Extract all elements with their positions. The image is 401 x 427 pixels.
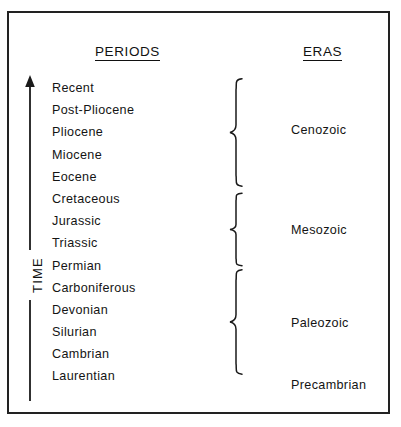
brace-mesozoic [228,192,250,267]
period-row: Eocene [52,166,222,188]
period-row: Recent [52,77,222,99]
period-row: Cretaceous [52,188,222,210]
column-header-periods-label: PERIODS [95,44,160,61]
period-row: Pliocene [52,121,222,143]
period-row: Cambrian [52,343,222,365]
time-axis [0,0,60,427]
brace-cenozoic [228,77,250,188]
column-header-periods: PERIODS [95,44,160,61]
curly-brace-icon [228,192,250,267]
column-header-eras: ERAS [303,44,342,61]
period-row: Devonian [52,299,222,321]
period-row: Jurassic [52,210,222,232]
period-row: Post-Pliocene [52,99,222,121]
period-row: Carboniferous [52,277,222,299]
geological-time-scale-diagram: PERIODS ERAS TIME Recent Post-Pliocene P… [0,0,401,427]
era-label-precambrian: Precambrian [291,378,366,392]
time-axis-arrow [0,0,60,427]
era-label-cenozoic: Cenozoic [291,123,346,137]
era-label-paleozoic: Paleozoic [291,316,349,330]
curly-brace-icon [228,77,250,188]
periods-column: Recent Post-Pliocene Pliocene Miocene Eo… [52,77,222,388]
period-row: Laurentian [52,365,222,387]
curly-brace-icon [228,268,250,376]
period-row: Permian [52,255,222,277]
period-row: Triassic [52,232,222,254]
column-header-eras-label: ERAS [303,44,342,61]
period-row: Silurian [52,321,222,343]
brace-paleozoic [228,268,250,376]
era-label-mesozoic: Mesozoic [291,223,347,237]
period-row: Miocene [52,144,222,166]
